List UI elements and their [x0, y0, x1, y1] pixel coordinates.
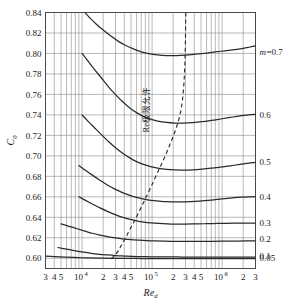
- y-tick-label: 0.82: [26, 28, 42, 38]
- x-tick-label: 3: [43, 272, 48, 282]
- y-tick-label: 0.68: [26, 172, 42, 182]
- series-label-005: 0.05: [260, 253, 276, 263]
- y-tick-label: 0.62: [26, 233, 42, 243]
- x-tick-label: 2: [171, 272, 176, 282]
- svg-text:5: 5: [154, 270, 157, 277]
- y-tick-label: 0.64: [26, 213, 42, 223]
- x-tick-label: 3: [253, 272, 258, 282]
- series-label-04: 0.4: [260, 192, 272, 202]
- y-tick-label: 0.80: [26, 49, 42, 59]
- series-label-03: 0.3: [260, 218, 272, 228]
- chart-figure: 0.600.620.640.660.680.700.720.740.760.78…: [0, 0, 303, 304]
- x-tick-label: 4: [52, 272, 57, 282]
- y-tick-label: 0.66: [26, 192, 42, 202]
- series-label-02: 0.2: [260, 234, 271, 244]
- y-tick-label: 0.78: [26, 69, 42, 79]
- svg-text:10: 10: [74, 272, 84, 282]
- x-tick-label: 2: [101, 272, 106, 282]
- chart-container: 0.600.620.640.660.680.700.720.740.760.78…: [0, 0, 303, 304]
- x-tick-label: 2: [241, 272, 246, 282]
- series-label-m07: m=0.7: [260, 47, 284, 57]
- series-label-06: 0.6: [260, 110, 272, 120]
- svg-text:m: m: [260, 47, 267, 57]
- annotation-re-limit: Re极限允许: [141, 87, 151, 132]
- chart-annotations: Re极限允许: [141, 87, 151, 132]
- svg-text:10: 10: [144, 272, 154, 282]
- series-label-05: 0.5: [260, 157, 272, 167]
- x-tick-label: 5: [199, 272, 204, 282]
- x-tick-label: 3: [183, 272, 188, 282]
- y-tick-label: 0.74: [26, 110, 42, 120]
- y-tick-label: 0.76: [26, 90, 42, 100]
- svg-text:=0.7: =0.7: [267, 47, 284, 57]
- x-tick-label: 5: [59, 272, 64, 282]
- y-tick-label: 0.70: [26, 151, 42, 161]
- x-tick-label: 4: [122, 272, 127, 282]
- x-tick-label: 5: [129, 272, 134, 282]
- svg-text:10: 10: [214, 272, 224, 282]
- x-tick-label: 3: [113, 272, 118, 282]
- y-tick-label: 0.72: [26, 131, 42, 141]
- x-tick-label: 4: [192, 272, 197, 282]
- y-tick-label: 0.60: [26, 253, 42, 263]
- y-tick-label: 0.84: [26, 8, 42, 18]
